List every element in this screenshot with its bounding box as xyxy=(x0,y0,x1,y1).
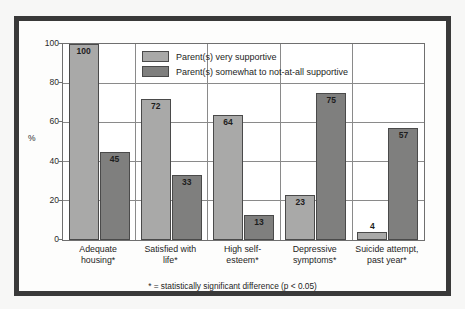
y-tick-label: 40 xyxy=(33,157,59,165)
bar: 72 xyxy=(141,99,171,240)
bar: 45 xyxy=(100,152,130,240)
bar-value-label: 75 xyxy=(317,96,345,105)
x-label-line: past year* xyxy=(342,255,432,266)
gridline xyxy=(63,83,424,84)
bar-value-label: 72 xyxy=(142,102,170,111)
x-label-line: Suicide attempt, xyxy=(342,244,432,255)
chart-legend: Parent(s) very supportiveParent(s) somew… xyxy=(142,51,348,81)
x-axis-labels: Adequatehousing*Satisfied withlife*High … xyxy=(62,244,425,278)
figure-frame: 020406080100 % 10045723364132375457 Pare… xyxy=(14,16,451,296)
bar-value-label: 23 xyxy=(286,198,314,207)
gridline xyxy=(63,122,424,123)
bar-value-label: 45 xyxy=(101,155,129,164)
bar-value-label: 33 xyxy=(173,178,201,187)
y-tick-label: 60 xyxy=(33,117,59,125)
group-separator xyxy=(135,44,136,240)
bar: 23 xyxy=(285,195,315,240)
y-tick-label: 80 xyxy=(33,78,59,86)
bar-value-label: 4 xyxy=(358,222,386,231)
bar: 33 xyxy=(172,175,202,240)
bar-value-label: 64 xyxy=(214,118,242,127)
legend-item-label: Parent(s) very supportive xyxy=(176,52,277,62)
bar: 75 xyxy=(316,93,346,240)
chart-footnote: * = statistically significant difference… xyxy=(19,281,446,291)
dark-gray-swatch xyxy=(142,66,169,77)
bar-value-label: 57 xyxy=(389,131,417,140)
legend-item: Parent(s) somewhat to not-at-all support… xyxy=(142,66,348,77)
light-gray-swatch xyxy=(142,51,169,62)
bar: 64 xyxy=(213,115,243,240)
bar-value-label: 100 xyxy=(70,47,98,56)
legend-item: Parent(s) very supportive xyxy=(142,51,348,62)
bar: 57 xyxy=(388,128,418,240)
y-tick-label: 100 xyxy=(33,39,59,47)
x-axis-category-label: Suicide attempt,past year* xyxy=(342,244,432,266)
group-separator xyxy=(352,44,353,240)
scanned-page: 020406080100 % 10045723364132375457 Pare… xyxy=(0,0,465,309)
legend-item-label: Parent(s) somewhat to not-at-all support… xyxy=(176,67,348,77)
y-tick-label: 20 xyxy=(33,196,59,204)
bar-value-label: 13 xyxy=(245,218,273,227)
y-tick-label: 0 xyxy=(33,235,59,243)
bar: 100 xyxy=(69,44,99,240)
bar: 13 xyxy=(244,215,274,240)
bar: 4 xyxy=(357,232,387,240)
y-axis-title: % xyxy=(28,133,36,143)
bar-chart: 020406080100 % 10045723364132375457 Pare… xyxy=(19,21,446,291)
